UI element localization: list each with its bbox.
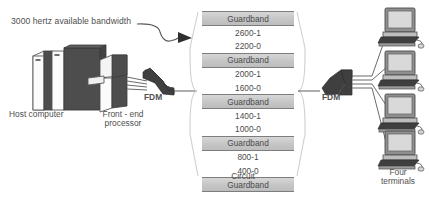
frequency-row: 1400-1	[202, 109, 294, 122]
terminal-group	[378, 8, 424, 171]
four-terminals-label: Four terminals	[372, 168, 424, 187]
desktop-computer-icon	[378, 94, 424, 134]
guardband-row: Guardband	[202, 53, 294, 68]
fdm-left-label: FDM	[144, 93, 162, 102]
front-end-processor-label: Front - end processor	[92, 110, 154, 129]
circuit-label: Circuit	[213, 172, 273, 181]
desktop-computer-icon	[378, 8, 424, 48]
link-fep-to-fdm-left	[127, 77, 147, 90]
frequency-row: 2000-1	[202, 68, 294, 81]
host-computer-label: Host computer	[9, 110, 63, 119]
fdm-right-label: FDM	[322, 93, 340, 102]
guardband-row: Guardband	[202, 11, 294, 26]
frequency-row: 1000-0	[202, 123, 294, 136]
frequency-row: 2200-0	[202, 39, 294, 52]
guardband-row: Guardband	[202, 94, 294, 109]
bandwidth-annotation-label: 3000 hertz available bandwidth	[11, 17, 131, 27]
guardband-row: Guardband	[202, 136, 294, 151]
frequency-row: 1600-0	[202, 81, 294, 94]
fdm-network-diagram: Guardband2600-12200-0Guardband2000-11600…	[0, 0, 429, 198]
desktop-computer-icon	[378, 51, 424, 91]
fdm-funnel-icon-left	[143, 68, 174, 95]
frequency-row: 800-1	[202, 151, 294, 164]
desktop-computer-icon	[378, 131, 424, 171]
circuit-spectrum-stack: Guardband2600-12200-0Guardband2000-11600…	[202, 11, 294, 192]
curved-arrow-icon	[137, 24, 192, 43]
frequency-row: 2600-1	[202, 26, 294, 39]
